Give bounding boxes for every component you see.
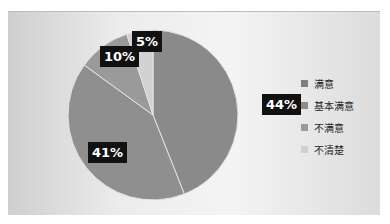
legend: 满意 基本满意 不满意 不清楚 bbox=[301, 72, 354, 160]
legend-item: 基本满意 bbox=[301, 94, 354, 116]
data-label-44: 44% bbox=[262, 94, 301, 115]
legend-swatch-icon bbox=[301, 124, 308, 131]
legend-item: 满意 bbox=[301, 72, 354, 94]
legend-item: 不清楚 bbox=[301, 138, 354, 160]
data-label-41: 41% bbox=[88, 142, 127, 163]
legend-item: 不满意 bbox=[301, 116, 354, 138]
legend-swatch-icon bbox=[301, 102, 308, 109]
legend-swatch-icon bbox=[301, 80, 308, 87]
data-label-5: 5% bbox=[132, 31, 162, 52]
legend-swatch-icon bbox=[301, 146, 308, 153]
